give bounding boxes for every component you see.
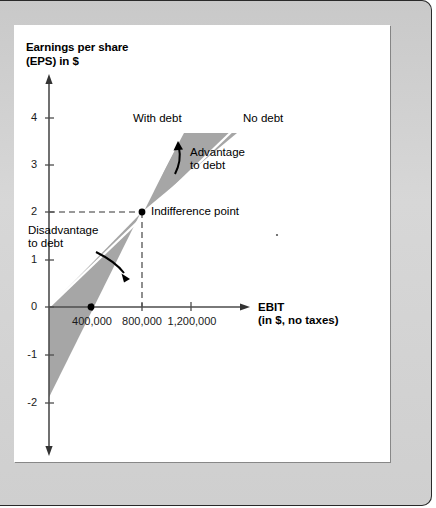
y-tick-label-3: 3 xyxy=(15,158,37,170)
x-axis-title: EBIT (in $, no taxes) xyxy=(258,301,339,327)
y-tick-label-neg1: -1 xyxy=(15,348,37,360)
with-debt-label: With debt xyxy=(133,112,182,125)
y-tick-label-0: 0 xyxy=(15,300,37,312)
x-tick-label-1200k: 1,200,000 xyxy=(156,315,228,327)
y-tick-label-neg2: -2 xyxy=(15,396,37,408)
y-tick-label-2: 2 xyxy=(15,205,37,217)
advantage-to-debt-label: Advantage to debt xyxy=(190,146,245,172)
indifference-point-marker xyxy=(139,209,146,216)
y-axis-arrow-up xyxy=(45,74,52,84)
y-tick-label-4: 4 xyxy=(15,111,37,123)
with-debt-zero-marker xyxy=(88,304,95,311)
plot-area xyxy=(0,0,436,508)
ebit-eps-chart: Earnings per share (EPS) in $ xyxy=(0,0,436,508)
indifference-point-label: Indifference point xyxy=(151,205,239,218)
y-tick-label-1: 1 xyxy=(15,253,37,265)
scan-speck xyxy=(276,234,278,236)
disadvantage-to-debt-label: Disadvantage to debt xyxy=(28,224,98,250)
no-debt-label: No debt xyxy=(243,112,283,125)
y-axis-arrow-down xyxy=(45,446,52,456)
x-axis-arrow xyxy=(240,303,250,310)
disadvantage-callout-arrowhead xyxy=(122,274,131,283)
with-debt-line xyxy=(49,114,191,400)
